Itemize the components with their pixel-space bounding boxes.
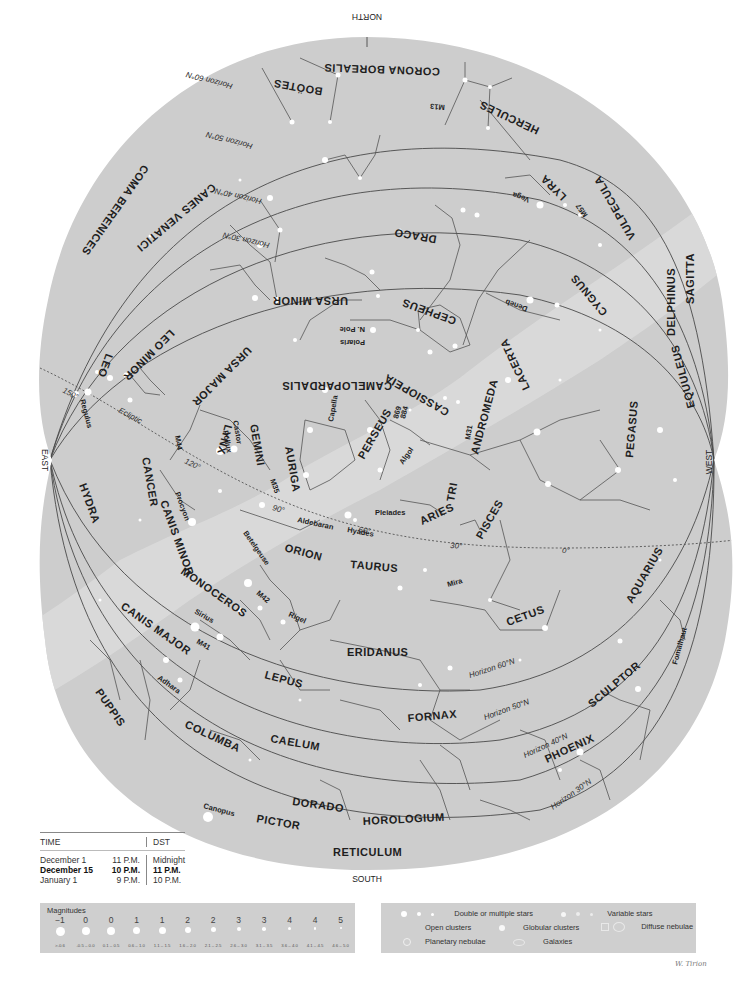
magnitude-class: 0 bbox=[99, 915, 123, 935]
dst-header: DST bbox=[147, 837, 170, 847]
magnitude-star-icon bbox=[107, 927, 115, 935]
time-table-row: December 15 10 P.M. 11 P.M. bbox=[40, 865, 185, 875]
magnitude-value: 5 bbox=[329, 915, 353, 926]
row-time: 10 P.M. bbox=[102, 865, 147, 875]
object-label: M13 bbox=[430, 102, 445, 112]
time-header: TIME bbox=[40, 837, 102, 847]
magnitude-class: 2 bbox=[201, 915, 225, 932]
magnitude-class: 2 bbox=[176, 915, 200, 933]
magnitude-star-icon bbox=[133, 927, 140, 934]
row-date: January 1 bbox=[40, 875, 102, 885]
constellation-label: CAMELOPARDALIS bbox=[282, 380, 392, 392]
magnitude-value: 0 bbox=[74, 915, 98, 926]
magnitude-value: 3 bbox=[227, 915, 251, 926]
magnitude-value: 4 bbox=[303, 915, 327, 926]
row-time: 9 P.M. bbox=[102, 875, 147, 885]
magnitude-class: 5 bbox=[329, 915, 353, 929]
legend-diffuse-nebulae: Diffuse nebulae bbox=[601, 922, 693, 932]
magnitude-star-icon bbox=[340, 927, 342, 929]
constellation-label: ERIDANUS bbox=[347, 646, 408, 658]
object-label: N. Pole bbox=[340, 325, 365, 334]
magnitude-class: 4 bbox=[278, 915, 302, 930]
magnitude-class: 0 bbox=[74, 915, 98, 935]
variable-star-icon bbox=[576, 912, 580, 916]
magnitude-value: 1 bbox=[150, 915, 174, 926]
magnitude-star-icon bbox=[237, 927, 241, 931]
globular-cluster-icon bbox=[499, 925, 505, 931]
time-table-header: TIME DST bbox=[40, 832, 185, 851]
magnitude-class: 1 bbox=[150, 915, 174, 934]
constellation-label: URSA MINOR bbox=[273, 295, 348, 307]
magnitude-star-icon bbox=[262, 927, 266, 931]
magnitude-class: 4 bbox=[303, 915, 327, 930]
east-label: EAST bbox=[40, 449, 50, 471]
constellation-label: RETICULUM bbox=[333, 846, 402, 858]
magnitude-star-icon bbox=[288, 927, 291, 930]
south-label: SOUTH bbox=[352, 874, 382, 884]
legend-open-clusters: Open clusters bbox=[425, 923, 471, 932]
row-dst: Midnight bbox=[147, 855, 185, 865]
magnitude-range: 4.6 – 5.0 bbox=[326, 943, 356, 948]
magnitude-star-icon bbox=[159, 927, 166, 934]
magnitude-value: 3 bbox=[252, 915, 276, 926]
object-label: Pleiades bbox=[375, 508, 405, 517]
variable-star-icon bbox=[561, 912, 566, 917]
symbol-legend: Double or multiple stars Variable stars … bbox=[381, 903, 696, 953]
legend-variable-stars: Variable stars bbox=[561, 909, 653, 918]
time-table: TIME DST December 1 11 P.M. Midnight Dec… bbox=[40, 832, 185, 885]
row-date: December 15 bbox=[40, 865, 102, 875]
magnitude-value: −1 bbox=[48, 915, 72, 926]
diffuse-nebula-icon bbox=[601, 923, 609, 931]
magnitude-value: 2 bbox=[176, 915, 200, 926]
legend-galaxies: Galaxies bbox=[513, 937, 572, 946]
double-star-icon bbox=[401, 911, 407, 917]
diffuse-nebula-icon bbox=[613, 922, 625, 932]
legend-double-stars: Double or multiple stars bbox=[401, 909, 533, 918]
ecliptic-0: 0° bbox=[562, 546, 570, 555]
west-label: WEST bbox=[704, 450, 714, 475]
magnitude-star-icon bbox=[56, 927, 65, 936]
variable-star-icon bbox=[590, 913, 593, 916]
double-star-icon bbox=[417, 912, 421, 916]
artist-signature: W. Tirion bbox=[675, 960, 707, 968]
time-table-row: January 1 9 P.M. 10 P.M. bbox=[40, 875, 185, 885]
magnitude-legend-title: Magnitudes bbox=[47, 906, 86, 915]
planetary-nebula-icon bbox=[403, 938, 411, 946]
row-time: 11 P.M. bbox=[102, 855, 147, 865]
object-label: Polaris bbox=[340, 338, 365, 347]
magnitude-class: 3 bbox=[227, 915, 251, 931]
ecliptic-30: 30° bbox=[450, 541, 463, 551]
row-dst: 11 P.M. bbox=[147, 865, 181, 875]
time-table-row: December 1 11 P.M. Midnight bbox=[40, 855, 185, 865]
legend-planetary-nebulae: Planetary nebulae bbox=[403, 937, 486, 946]
row-date: December 1 bbox=[40, 855, 102, 865]
magnitude-value: 4 bbox=[278, 915, 302, 926]
magnitude-class: 1 bbox=[125, 915, 149, 934]
magnitude-value: 2 bbox=[201, 915, 225, 926]
magnitude-star-icon bbox=[82, 927, 90, 935]
magnitude-value: 1 bbox=[125, 915, 149, 926]
magnitude-star-icon bbox=[314, 927, 317, 930]
constellation-label: SAGITTA bbox=[684, 253, 696, 304]
double-star-icon bbox=[431, 913, 434, 916]
magnitude-class: 3 bbox=[252, 915, 276, 931]
magnitude-class: −1 bbox=[48, 915, 72, 936]
magnitude-legend: Magnitudes −1>-0.60-0.5 – 0.000.1 – 0.51… bbox=[40, 903, 355, 953]
magnitude-star-icon bbox=[185, 927, 191, 933]
constellation-label: DELPHINUS bbox=[665, 268, 677, 336]
magnitude-value: 0 bbox=[99, 915, 123, 926]
galaxy-icon bbox=[513, 939, 525, 946]
legend-globular-clusters: Globular clusters bbox=[499, 923, 579, 932]
magnitude-star-icon bbox=[211, 927, 216, 932]
north-label: NORTH bbox=[352, 12, 382, 22]
row-dst: 10 P.M. bbox=[147, 875, 181, 885]
